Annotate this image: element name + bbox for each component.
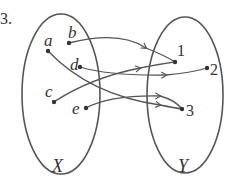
set-y-ellipse [147, 17, 223, 173]
set-x-ellipse [22, 14, 100, 174]
arrow-d-to-2-tail [166, 68, 207, 75]
label-c: c [45, 82, 53, 101]
label-d: d [70, 55, 79, 74]
point-1 [173, 60, 177, 64]
problem-number: 3. [0, 10, 12, 27]
point-e [84, 106, 88, 110]
arrow-e-to-3 [86, 96, 160, 108]
point-2 [205, 66, 209, 70]
label-b: b [68, 23, 77, 42]
label-1: 1 [177, 42, 185, 59]
label-3: 3 [186, 102, 194, 119]
label-a: a [44, 31, 53, 50]
arrow-c-to-1-tail [140, 62, 175, 68]
arrow-b-to-1 [69, 38, 146, 48]
set-x-label: X [51, 156, 64, 176]
label-e: e [72, 99, 80, 118]
arrow-d-to-2 [80, 67, 166, 75]
mapping-diagram: 3. a b c d e 1 2 3 X Y [0, 0, 228, 182]
label-2: 2 [210, 61, 218, 78]
point-3 [180, 107, 184, 111]
